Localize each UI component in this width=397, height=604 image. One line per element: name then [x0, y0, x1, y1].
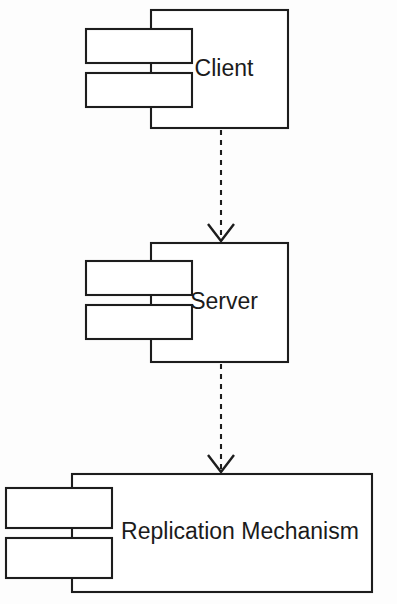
- component-server[interactable]: Server: [86, 243, 288, 362]
- dependency-client-to-server[interactable]: [208, 130, 234, 241]
- component-server-port-top[interactable]: [86, 261, 192, 295]
- component-client[interactable]: Client: [86, 10, 288, 128]
- component-replication-mechanism-label: Replication Mechanism: [121, 518, 359, 544]
- component-replication-mechanism-port-bottom[interactable]: [6, 538, 112, 578]
- component-replication-mechanism-port-top[interactable]: [6, 488, 112, 528]
- diagram-canvas: Client Server Replication Mechanism: [0, 0, 397, 604]
- component-server-label: Server: [190, 288, 258, 314]
- component-client-label: Client: [195, 55, 254, 81]
- component-replication-mechanism[interactable]: Replication Mechanism: [6, 474, 372, 592]
- component-client-port-top[interactable]: [86, 29, 192, 63]
- component-diagram: Client Server Replication Mechanism: [0, 0, 397, 604]
- component-server-port-bottom[interactable]: [86, 305, 192, 339]
- dependency-server-to-replication[interactable]: [208, 364, 234, 472]
- component-client-port-bottom[interactable]: [86, 73, 192, 107]
